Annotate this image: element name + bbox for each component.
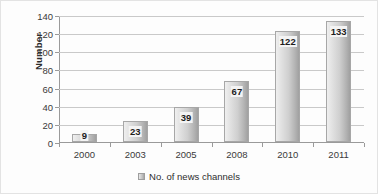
x-axis-tick-mark (313, 143, 314, 147)
bar-2010 (275, 31, 300, 142)
x-axis-tick-mark (212, 143, 213, 147)
x-axis-tick-mark (110, 143, 111, 147)
bar-value-label-2000: 9 (81, 130, 88, 141)
plot-area: 020406080100120140 9233967122133 (59, 16, 364, 143)
x-axis-tick-mark (262, 143, 263, 147)
bar-value-label-2008: 67 (231, 86, 244, 97)
chart-legend: No. of news channels (1, 171, 377, 182)
y-axis-tick-mark (55, 52, 59, 53)
y-axis-tick-label: 20 (42, 119, 53, 130)
bar-value-label-2010: 122 (279, 36, 297, 47)
gridline (59, 89, 364, 90)
x-axis-tick-mark (161, 143, 162, 147)
bar-value-label-2003: 23 (129, 126, 142, 137)
x-axis-tick-label-2000: 2000 (74, 149, 95, 160)
bar-value-label-2011: 133 (330, 26, 348, 37)
bar-value-label-2005: 39 (180, 112, 193, 123)
gridline (59, 16, 364, 17)
y-axis-tick-label: 120 (37, 29, 53, 40)
gridline (59, 34, 364, 35)
x-axis-tick-mark (59, 143, 60, 147)
gridline (59, 52, 364, 53)
gridline (59, 107, 364, 108)
y-axis-tick-mark (55, 34, 59, 35)
y-axis-tick-label: 60 (42, 83, 53, 94)
y-axis-tick-mark (55, 89, 59, 90)
legend-entry-label: No. of news channels (149, 171, 240, 182)
y-axis-tick-label: 80 (42, 65, 53, 76)
x-axis-tick-mark (364, 143, 365, 147)
y-axis-tick-mark (55, 107, 59, 108)
bar-2011 (326, 21, 351, 142)
y-axis-tick-mark (55, 16, 59, 17)
y-axis-tick-label: 40 (42, 101, 53, 112)
x-axis-tick-label-2008: 2008 (226, 149, 247, 160)
x-axis-tick-label-2011: 2011 (328, 149, 348, 160)
y-axis-tick-label: 140 (37, 11, 53, 22)
x-axis-tick-label-2005: 2005 (176, 149, 197, 160)
bar-chart: Number 020406080100120140 9233967122133 … (0, 0, 378, 194)
y-axis-tick-mark (55, 125, 59, 126)
x-axis-tick-label-2003: 2003 (125, 149, 146, 160)
y-axis-tick-mark (55, 70, 59, 71)
x-axis-tick-label-2010: 2010 (277, 149, 298, 160)
legend-swatch-icon (138, 173, 145, 180)
gridline (59, 125, 364, 126)
y-axis-tick-label: 100 (37, 47, 53, 58)
gridline (59, 70, 364, 71)
y-axis-tick-label: 0 (48, 138, 53, 149)
